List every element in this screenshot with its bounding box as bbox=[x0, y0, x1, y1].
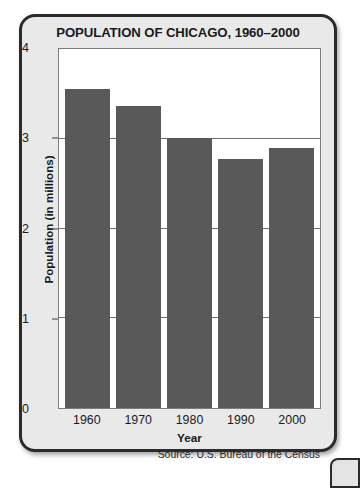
bar-1960 bbox=[65, 89, 110, 408]
source-note: Source: U.S. Bureau of the Census bbox=[158, 449, 320, 460]
bar-1970 bbox=[116, 106, 161, 408]
bar-slot bbox=[167, 49, 212, 408]
bar-1990 bbox=[218, 159, 263, 409]
bar-1980 bbox=[167, 138, 212, 408]
y-tick-mark bbox=[52, 228, 58, 229]
x-axis-title: Year bbox=[58, 431, 321, 445]
bar-series bbox=[59, 49, 320, 408]
x-tick-label-1960: 1960 bbox=[64, 413, 110, 427]
x-axis-tick-labels: 19601970198019902000 bbox=[58, 413, 321, 427]
y-tick-mark bbox=[52, 318, 58, 319]
y-tick-mark bbox=[52, 138, 58, 139]
chart-panel: POPULATION OF CHICAGO, 1960–2000 Populat… bbox=[19, 14, 337, 452]
bar-slot bbox=[218, 49, 263, 408]
plot-area bbox=[58, 48, 321, 409]
page-corner-tab bbox=[330, 458, 360, 488]
y-axis-title: Population (in millions) bbox=[42, 130, 55, 310]
bar-slot bbox=[269, 49, 314, 408]
bar-slot bbox=[116, 49, 161, 408]
x-tick-label-1980: 1980 bbox=[167, 413, 213, 427]
x-tick-label-2000: 2000 bbox=[269, 413, 315, 427]
bar-slot bbox=[65, 49, 110, 408]
y-tick-label-2: 2 bbox=[0, 222, 29, 236]
y-tick-label-3: 3 bbox=[0, 131, 29, 145]
chart-title: POPULATION OF CHICAGO, 1960–2000 bbox=[22, 25, 334, 40]
y-tick-label-1: 1 bbox=[0, 312, 29, 326]
bar-2000 bbox=[269, 148, 314, 408]
y-tick-label-0: 0 bbox=[0, 402, 29, 416]
x-tick-label-1990: 1990 bbox=[218, 413, 264, 427]
y-tick-label-4: 4 bbox=[0, 41, 29, 55]
x-tick-label-1970: 1970 bbox=[115, 413, 161, 427]
